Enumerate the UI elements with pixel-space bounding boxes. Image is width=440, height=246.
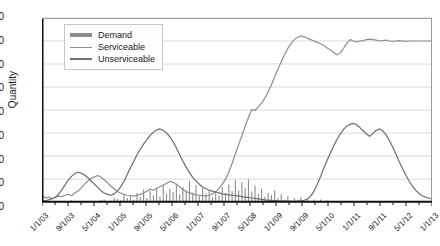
legend-label: Serviceable: [98, 41, 145, 53]
y-tick-100: 100: [0, 178, 4, 188]
legend-swatch-demand-icon: [70, 33, 92, 37]
legend-label: Demand: [98, 29, 132, 41]
y-tick-600: 600: [0, 60, 4, 70]
y-tick-500: 500: [0, 83, 4, 93]
legend-swatch-serviceable-icon: [70, 47, 92, 48]
legend-item-demand: Demand: [70, 29, 155, 41]
y-tick-300: 300: [0, 131, 4, 141]
y-tick-800: 800: [0, 12, 4, 22]
y-tick-200: 200: [0, 155, 4, 165]
y-axis-label: Quantity: [7, 50, 18, 130]
legend-item-unserviceable: Unserviceable: [70, 53, 155, 65]
legend-item-serviceable: Serviceable: [70, 41, 155, 53]
quantity-line-chart: Quantity 0100200300400500600700800 1/1/0…: [0, 0, 440, 246]
legend-swatch-unserviceable-icon: [70, 58, 92, 60]
y-tick-700: 700: [0, 36, 4, 46]
series-unserviceable-line: [42, 123, 432, 201]
y-tick-0: 0: [0, 202, 4, 212]
y-tick-400: 400: [0, 107, 4, 117]
legend-label: Unserviceable: [98, 53, 155, 65]
chart-legend: DemandServiceableUnserviceable: [64, 24, 163, 70]
